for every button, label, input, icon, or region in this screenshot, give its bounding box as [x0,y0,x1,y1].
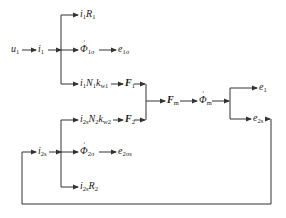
node-i1N1kw1: i1N1kw1 [80,78,108,91]
node-u1: u1 [11,44,19,57]
node-phi-1sigma: Φ1σ [80,44,94,57]
node-F1: F1 [125,78,135,91]
node-i1R1: i1R1 [80,9,95,22]
node-i1: i1 [38,44,44,57]
connector-lines [0,0,286,218]
node-F2: F2 [125,114,135,127]
node-i2s: i2s [38,146,47,159]
node-i2sN2kw2: i2sN2kw2 [80,114,111,127]
node-phi-m: Φm [199,95,212,108]
node-Fm: Fm [167,95,179,108]
node-e1: e1 [259,82,267,95]
node-e-1sigma: e1σ [118,44,129,57]
node-phi-2sigma: Φ2σ [80,146,94,159]
signal-flow-diagram: u1 i1 i1R1 Φ1σ e1σ i1N1kw1 F1 i2sN2kw2 F… [0,0,286,218]
node-e2s: e2s [253,113,263,126]
node-i2sR2: i2sR2 [80,181,98,194]
node-e-2sigma-s: e2σs [118,146,132,159]
